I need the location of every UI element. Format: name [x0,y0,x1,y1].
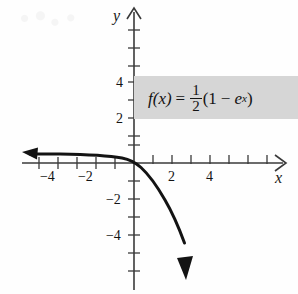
curve-left-arrow [22,148,38,160]
x-axis-label: x [275,170,282,186]
x-tick-label-neg2: −2 [78,170,93,184]
equation-minus: − [221,90,231,107]
graph-figure: f(x) = 1 2 (1 − e x ) y x −4 −2 2 4 4 2 … [0,0,298,294]
equation-close-paren: ) [247,90,253,107]
y-tick-label-neg2: −2 [106,193,121,207]
y-tick-label-neg4: −4 [106,229,121,243]
coordinate-plot [0,0,298,294]
x-axis-ticks [39,155,267,169]
equation-lhs: f(x) [148,90,172,107]
equation-equals: = [176,90,186,107]
function-curve [22,148,193,281]
fraction-denominator: 2 [190,99,202,114]
fraction-numerator: 1 [190,83,202,98]
x-tick-label-neg4: −4 [40,170,55,184]
equation-exp-base: e [234,90,242,107]
y-axis-label: y [113,8,120,24]
y-tick-label-2: 2 [116,112,123,126]
y-tick-label-4: 4 [116,76,123,90]
x-tick-label-2: 2 [168,170,175,184]
curve-down-arrow [177,256,193,280]
one-half-fraction: 1 2 [190,83,202,115]
y-axis [127,8,141,290]
equation-open-paren: (1 [203,90,217,107]
function-equation: f(x) = 1 2 (1 − e x ) [148,83,253,115]
x-axis [22,155,286,171]
x-tick-label-4: 4 [206,170,213,184]
